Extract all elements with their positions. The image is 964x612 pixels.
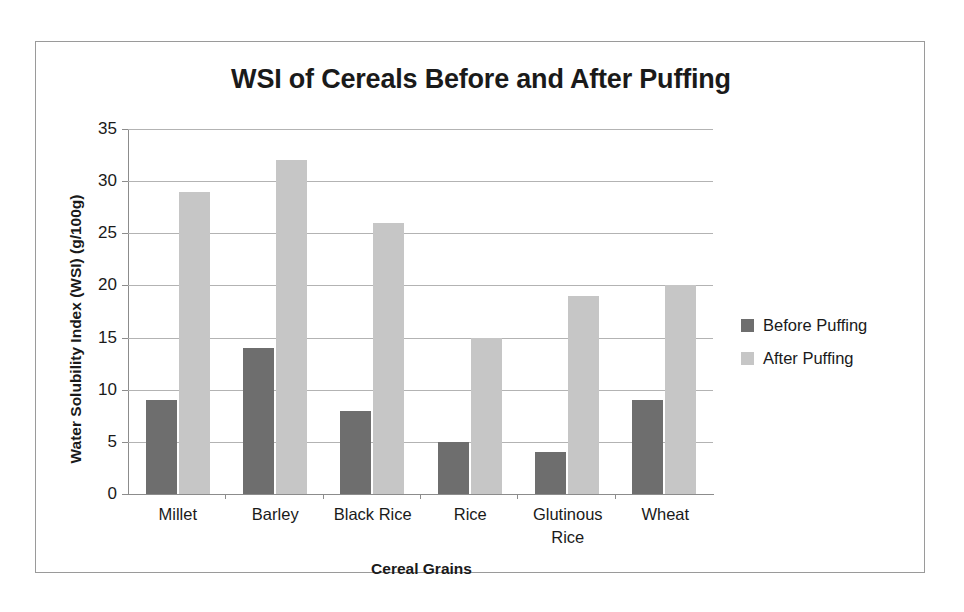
y-axis-tick-label: 30	[98, 171, 117, 191]
legend-item[interactable]: After Puffing	[741, 342, 867, 375]
y-axis-tick	[122, 129, 128, 130]
bar-group	[421, 129, 518, 494]
bars-layer	[129, 129, 713, 494]
y-axis-tick	[122, 442, 128, 443]
bar-group	[518, 129, 615, 494]
y-axis-tick-label: 35	[98, 119, 117, 139]
x-axis-title: Cereal Grains	[129, 560, 714, 578]
bar[interactable]	[471, 338, 502, 494]
bar-group	[324, 129, 421, 494]
legend-label: Before Puffing	[763, 316, 867, 335]
bar[interactable]	[373, 223, 404, 494]
legend-item[interactable]: Before Puffing	[741, 309, 867, 342]
bar-group	[226, 129, 323, 494]
bar[interactable]	[438, 442, 469, 494]
bar-group	[616, 129, 713, 494]
y-axis-tick	[122, 181, 128, 182]
y-axis-title: Water Solubility Index (WSI) (g/100g)	[67, 139, 85, 519]
y-axis-tick-label: 25	[98, 223, 117, 243]
x-axis-tick-label: Millet	[129, 503, 227, 549]
y-axis-tick	[122, 338, 128, 339]
bar[interactable]	[665, 285, 696, 494]
x-axis-tick-label: Wheat	[617, 503, 715, 549]
legend-label: After Puffing	[763, 349, 854, 368]
x-axis-tick-label: GlutinousRice	[519, 503, 617, 549]
plot-area: 05101520253035	[128, 129, 713, 494]
x-axis-tick-label: Black Rice	[324, 503, 422, 549]
bar[interactable]	[535, 452, 566, 494]
bar[interactable]	[243, 348, 274, 494]
y-axis-tick-label: 10	[98, 380, 117, 400]
bar[interactable]	[340, 411, 371, 494]
y-axis-tick-label: 5	[108, 432, 117, 452]
y-axis-tick	[122, 233, 128, 234]
legend-swatch-icon	[741, 319, 754, 332]
bar[interactable]	[632, 400, 663, 494]
x-axis-line	[128, 494, 714, 495]
bar[interactable]	[276, 160, 307, 494]
y-axis-tick-label: 0	[108, 484, 117, 504]
legend-swatch-icon	[741, 352, 754, 365]
bar-group	[129, 129, 226, 494]
bar[interactable]	[179, 192, 210, 494]
bar[interactable]	[568, 296, 599, 494]
chart-container: WSI of Cereals Before and After Puffing …	[35, 41, 925, 573]
y-axis-tick-label: 15	[98, 328, 117, 348]
bar[interactable]	[146, 400, 177, 494]
x-axis-tick-label: Barley	[227, 503, 325, 549]
chart-legend: Before PuffingAfter Puffing	[741, 309, 867, 375]
x-axis-tick-label: Rice	[422, 503, 520, 549]
y-axis-tick	[122, 390, 128, 391]
chart-title: WSI of Cereals Before and After Puffing	[36, 64, 926, 95]
x-axis-tick-labels: MilletBarleyBlack RiceRiceGlutinousRiceW…	[129, 503, 714, 549]
y-axis-tick	[122, 285, 128, 286]
y-axis-tick-label: 20	[98, 275, 117, 295]
